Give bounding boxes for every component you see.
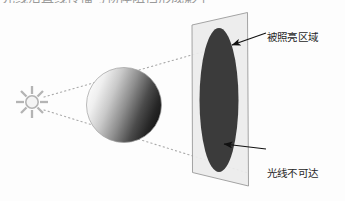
sun-ray-sw [21, 108, 27, 114]
sun-ray-ne [38, 91, 44, 97]
sun-ray-se [38, 108, 44, 114]
label-shadow-area: 光线不可达 产生阴影区域 [267, 141, 328, 201]
sun-core [26, 96, 38, 108]
sun-light-source [16, 86, 48, 118]
sun-ray-nw [21, 91, 27, 97]
label-lit-area: 被照亮区域 [267, 31, 318, 44]
opaque-sphere [87, 68, 162, 143]
label-shadow-line1: 光线不可达 [267, 167, 328, 180]
shadow-formation-figure: 光线沿直线传播与物体阻挡形成影子 [0, 0, 345, 201]
shadow-ellipse [200, 28, 239, 172]
sphere-body [87, 68, 162, 143]
